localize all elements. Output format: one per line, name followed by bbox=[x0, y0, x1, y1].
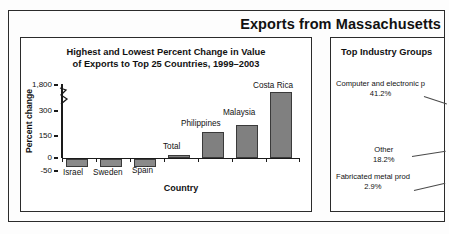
y-axis-title: Percent change bbox=[22, 88, 36, 154]
x-tick bbox=[62, 159, 63, 162]
bar-philippines bbox=[202, 132, 224, 158]
y-tick-0: 0 bbox=[26, 153, 58, 162]
x-tick bbox=[96, 159, 97, 162]
pie-callout-value: 2.9% bbox=[336, 182, 410, 192]
x-tick bbox=[299, 159, 300, 162]
x-tick bbox=[266, 159, 267, 162]
y-tick-300: 300 bbox=[26, 106, 58, 115]
page-banner: Exports from Massachusetts bbox=[10, 12, 443, 36]
bar-sweden bbox=[100, 159, 122, 167]
y-tick-1800: 1,800 bbox=[26, 80, 58, 89]
x-category-spain: Spain bbox=[132, 166, 153, 175]
bar-label-costa-rica: Costa Rica bbox=[253, 81, 293, 90]
x-axis-title: Country bbox=[62, 183, 300, 193]
pie-callout-fabricated-metal: Fabricated metal prod 2.9% bbox=[336, 172, 410, 191]
bar-malaysia bbox=[236, 125, 258, 158]
bar-chart-title: Highest and Lowest Percent Change in Val… bbox=[21, 47, 311, 70]
x-tick bbox=[164, 159, 165, 162]
x-tick bbox=[232, 159, 233, 162]
pie-callout-computer-electronic: Computer and electronic p 41.2% bbox=[336, 79, 425, 98]
pie-callout-other: Other 18.2% bbox=[373, 145, 395, 164]
bar-chart-title-line-1: Highest and Lowest Percent Change in Val… bbox=[21, 47, 311, 59]
pie-callout-value: 18.2% bbox=[373, 155, 395, 165]
x-category-sweden: Sweden bbox=[93, 168, 123, 177]
y-tick-minus50: -50 bbox=[22, 166, 58, 175]
pie-callout-label: Fabricated metal prod bbox=[336, 172, 410, 182]
pie-callout-value: 41.2% bbox=[336, 89, 425, 99]
pie-callout-label: Computer and electronic p bbox=[336, 79, 425, 89]
x-tick bbox=[130, 159, 131, 162]
document-page: Exports from Massachusetts Highest and L… bbox=[0, 0, 449, 234]
page-title: Exports from Massachusetts bbox=[240, 16, 441, 32]
pie-callout-label: Other bbox=[373, 145, 395, 155]
bar-chart-title-line-2: of Exports to Top 25 Countries, 1999–200… bbox=[21, 59, 311, 71]
bar-israel bbox=[66, 159, 88, 167]
x-tick bbox=[198, 159, 199, 162]
bar-label-philippines: Philippines bbox=[181, 119, 221, 128]
bar-label-malaysia: Malaysia bbox=[223, 108, 255, 117]
axis-break-icon bbox=[58, 86, 70, 106]
y-tick-150: 150 bbox=[26, 131, 58, 140]
pie-chart-title: Top Industry Groups bbox=[341, 47, 444, 59]
bar-costa-rica bbox=[270, 92, 292, 158]
bar-label-total: Total bbox=[163, 142, 180, 151]
x-category-israel: Israel bbox=[63, 168, 83, 177]
bar-total bbox=[168, 155, 190, 159]
